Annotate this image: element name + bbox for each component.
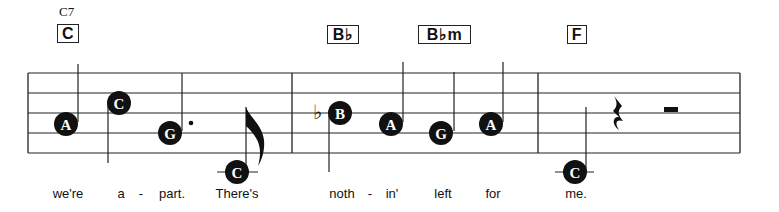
dotted-note-dot — [189, 121, 194, 126]
note-head-a: A — [379, 112, 403, 136]
lyric-hyphen: - — [368, 186, 372, 201]
staff-lines — [28, 73, 740, 153]
note-head-g: G — [429, 121, 453, 145]
eighth-flag-icon — [246, 107, 264, 166]
half-rest-icon — [664, 107, 678, 112]
svg-text:C: C — [114, 96, 125, 112]
lyric-word: noth — [329, 186, 354, 201]
svg-text:B: B — [335, 106, 345, 122]
lyric-word: in' — [386, 186, 399, 201]
svg-text:G: G — [435, 126, 447, 142]
note-head-c: C — [107, 91, 131, 115]
svg-text:G: G — [164, 126, 176, 142]
svg-text:A: A — [386, 117, 397, 133]
lyric-word: left — [434, 186, 451, 201]
lyric-word: a — [117, 186, 124, 201]
note-head-a: A — [54, 112, 78, 136]
flat-accidental-icon: ♭ — [313, 101, 322, 123]
note-head-g: G — [158, 121, 182, 145]
svg-text:C: C — [232, 165, 243, 181]
lyric-word: me. — [565, 186, 587, 201]
music-staff: ♭ A C G C B A G A C — [0, 0, 779, 212]
lyric-word: part. — [159, 186, 185, 201]
lyric-word: There's — [216, 186, 259, 201]
note-head-b-flat: B — [328, 101, 352, 125]
lyric-word: we're — [53, 186, 84, 201]
note-head-c-low: C — [225, 160, 249, 184]
svg-text:A: A — [61, 117, 72, 133]
note-head-c-low: C — [563, 160, 587, 184]
svg-text:A: A — [486, 117, 497, 133]
lyric-hyphen: - — [139, 186, 143, 201]
svg-text:C: C — [570, 165, 581, 181]
note-head-a: A — [479, 112, 503, 136]
lyric-word: for — [485, 186, 500, 201]
